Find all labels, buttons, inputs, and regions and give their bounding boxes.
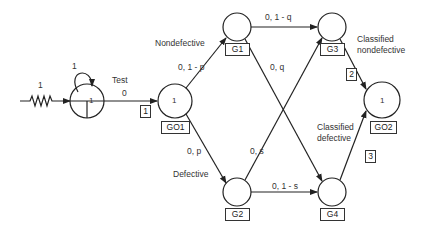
edge-go1-g1: 0, 1 - p (178, 62, 204, 72)
spring-input-arc (20, 96, 70, 106)
transition-index-2: 2 (346, 68, 357, 81)
edge-g1-g3: 0, 1 - q (265, 12, 291, 22)
spring-weight-label: 1 (38, 80, 43, 90)
g3-label: G3 (320, 43, 345, 56)
go2-label: GO2 (370, 121, 397, 134)
classified-nondefective-line2: nondefective (357, 45, 405, 55)
g4-label: G4 (320, 208, 345, 221)
g1-place (223, 13, 251, 41)
g1-label: G1 (225, 43, 250, 56)
edge-g1-g4: 0, q (270, 62, 284, 72)
loop-label: 1 (72, 61, 77, 71)
test-label: Test (112, 75, 128, 85)
g2-label: G2 (225, 208, 250, 221)
classified-nondefective-line1: Classified (357, 34, 394, 44)
transition-index-1: 1 (140, 105, 151, 118)
classified-defective-line2: defective (317, 133, 351, 143)
edge-g2-g3: 0, s (250, 146, 264, 156)
edge-go1-g2: 0, p (187, 146, 201, 156)
transition-index-3: 3 (365, 150, 376, 163)
edge-g2-g4: 0, 1 - s (272, 181, 298, 191)
test-rate-label: 0 (122, 88, 127, 98)
nondefective-label: Nondefective (155, 38, 205, 48)
go1-label: GO1 (161, 121, 190, 134)
defective-label: Defective (173, 169, 208, 179)
g3-place (318, 13, 346, 41)
source-token: 1 (89, 96, 93, 105)
go2-token: 1 (380, 96, 384, 105)
go1-token: 1 (172, 96, 176, 105)
classified-defective-line1: Classified (317, 122, 354, 132)
g2-place (223, 178, 251, 206)
g4-place (318, 178, 346, 206)
diagram-canvas: 1 1 1 Test 0 1 1 GO1 G1 G2 G3 G4 1 GO2 N… (0, 0, 421, 231)
